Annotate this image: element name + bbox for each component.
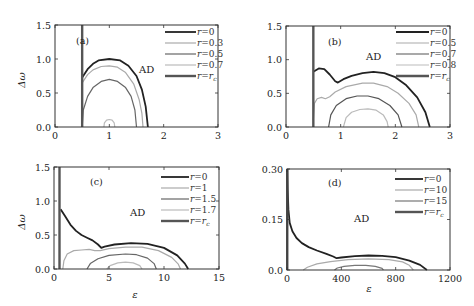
legend-entry: r=0.3 <box>197 38 223 48</box>
panel-b: 01230.00.51.01.5 (b) AD r=0r=0.5r=0.7r=0… <box>267 21 457 142</box>
x-tick-label: 3 <box>447 130 453 141</box>
y-tick-label: 0.0 <box>36 122 51 133</box>
x-axis-label-d: ε <box>366 283 371 294</box>
legend-entry: r=15 <box>424 196 448 206</box>
region-label-b: AD <box>365 51 381 62</box>
panel-label-a: (a) <box>76 35 89 46</box>
y-tick-label: 1.5 <box>267 21 282 32</box>
y-tick-label: 0.0 <box>35 264 50 275</box>
y-tick-label: 1.0 <box>36 54 51 65</box>
curve-r-1-7 <box>107 262 142 269</box>
x-tick-label: 15 <box>213 272 225 283</box>
x-tick-label: 10 <box>158 272 170 283</box>
x-tick-label: 2 <box>161 130 167 141</box>
legend-entry: r=0 <box>424 174 442 184</box>
curve-r-1-5 <box>87 254 156 269</box>
x-tick-label: 0 <box>283 130 289 141</box>
legend-entry: r=0.7 <box>197 60 223 70</box>
x-tick-label: 0 <box>51 272 57 283</box>
x-tick-label: 3 <box>215 130 221 141</box>
y-tick-label: 0.15 <box>262 214 283 225</box>
x-tick-label: 800 <box>387 273 405 284</box>
curve-r-0-3 <box>82 66 143 127</box>
y-axis-label-a: Δω <box>16 72 27 88</box>
legend-entry: r=1 <box>190 183 208 193</box>
x-tick-label: 2 <box>392 130 398 141</box>
y-tick-label: 0.30 <box>262 164 283 175</box>
legend-entry: r=1.7 <box>190 205 216 215</box>
y-tick-label: 0.5 <box>267 88 282 99</box>
legend-entry: r=rc <box>190 216 210 227</box>
curve-r-0 <box>61 209 189 269</box>
legend-entry: r=rc <box>430 71 450 82</box>
panel-d: 040080012000.00.150.30 ε (d) AD r=0r=10r… <box>262 164 462 295</box>
panel-label-b: (b) <box>328 36 342 47</box>
y-tick-label: 0.0 <box>268 265 283 276</box>
legend-a: r=0r=0.3r=0.5r=0.7r=rc <box>165 27 223 82</box>
x-tick-label: 1 <box>106 130 112 141</box>
curve-r-0-7 <box>329 96 402 127</box>
curves-a <box>82 25 148 127</box>
x-tick-label: 0 <box>284 273 290 284</box>
y-tick-label: 0.0 <box>267 122 282 133</box>
curves-c <box>60 167 189 269</box>
ticks-b: 01230.00.51.01.5 <box>267 21 453 142</box>
region-label-c: AD <box>129 207 145 218</box>
legend-entry: r=0.5 <box>430 38 456 48</box>
legend-entry: r=rc <box>424 207 444 218</box>
legend-entry: r=0.7 <box>430 49 456 59</box>
legend-entry: r=0 <box>190 172 208 182</box>
legend-c: r=0r=1r=1.5r=1.7r=rc <box>161 172 216 227</box>
y-tick-label: 0.5 <box>35 230 50 241</box>
x-tick-label: 5 <box>106 272 112 283</box>
legend-entry: r=0 <box>430 27 448 37</box>
legend-entry: r=0.5 <box>197 49 223 59</box>
panel-c: 0510150.00.51.01.5 Δω ε (c) AD r=0r=1r=1… <box>16 162 225 301</box>
x-tick-label: 400 <box>332 273 350 284</box>
y-tick-label: 1.5 <box>36 20 51 31</box>
panel-label-c: (c) <box>90 176 103 187</box>
y-tick-label: 1.0 <box>267 54 282 65</box>
x-axis-label-c: ε <box>132 289 137 300</box>
ticks-a: 01230.00.51.01.5 <box>36 20 221 142</box>
region-label-a: AD <box>138 64 154 75</box>
curve-r-0-8 <box>343 109 388 127</box>
figure: 01230.00.51.01.5 Δω (a) AD r=0r=0.3r=0.5… <box>0 0 474 306</box>
curve-r-1 <box>63 247 181 269</box>
y-tick-label: 0.5 <box>36 88 51 99</box>
curve-r-15 <box>335 265 384 270</box>
curve-r-0-5 <box>313 83 419 127</box>
y-tick-label: 1.0 <box>35 196 50 207</box>
x-tick-label: 1200 <box>438 273 462 284</box>
curve-r-10 <box>303 259 413 270</box>
panel-a: 01230.00.51.01.5 Δω (a) AD r=0r=0.3r=0.5… <box>16 20 223 142</box>
panel-label-d: (d) <box>328 177 342 188</box>
legend-entry: r=rc <box>197 71 217 82</box>
region-label-d: AD <box>353 213 369 224</box>
legend-entry: r=0.8 <box>430 60 456 70</box>
x-tick-label: 1 <box>338 130 344 141</box>
x-tick-label: 0 <box>52 130 58 141</box>
y-axis-label-c: Δω <box>16 214 27 230</box>
legend-d: r=0r=10r=15r=rc <box>395 174 448 218</box>
legend-entry: r=1.5 <box>190 194 216 204</box>
legend-entry: r=0 <box>197 27 215 37</box>
legend-entry: r=10 <box>424 185 448 195</box>
legend-b: r=0r=0.5r=0.7r=0.8r=rc <box>396 27 456 82</box>
y-tick-label: 1.5 <box>35 162 50 173</box>
